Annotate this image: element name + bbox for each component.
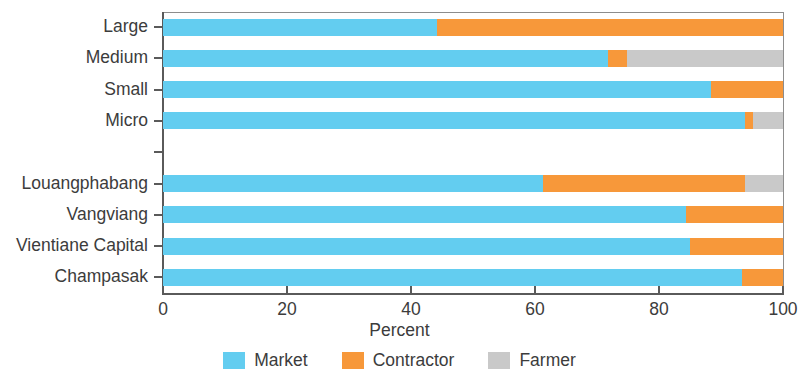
x-axis-tick bbox=[410, 286, 412, 295]
x-axis-tick-label-0: 0 bbox=[158, 299, 168, 319]
plot-frame-right bbox=[783, 12, 784, 294]
bar-segment-market bbox=[163, 50, 608, 67]
legend-swatch-market-icon bbox=[223, 352, 245, 369]
bar-small bbox=[163, 81, 783, 98]
bar-large bbox=[163, 19, 783, 36]
bar-segment-contractor bbox=[742, 269, 783, 286]
legend-swatch-farmer-icon bbox=[488, 352, 510, 369]
y-axis-label-medium: Medium bbox=[86, 48, 148, 67]
bar-segment-market bbox=[163, 19, 437, 36]
legend-item-market[interactable]: Market bbox=[223, 350, 307, 371]
x-axis-tick bbox=[782, 286, 784, 295]
bar-champasak bbox=[163, 269, 783, 286]
bar-segment-contractor bbox=[686, 206, 783, 223]
x-axis-tick bbox=[534, 286, 536, 295]
bar-medium bbox=[163, 50, 783, 67]
legend-item-contractor[interactable]: Contractor bbox=[342, 350, 455, 371]
bars-layer bbox=[163, 12, 783, 294]
bar-segment-market bbox=[163, 175, 543, 192]
bar-segment-market bbox=[163, 206, 686, 223]
bar-segment-market bbox=[163, 81, 711, 98]
y-axis-label-vangviang: Vangviang bbox=[67, 205, 148, 224]
bar-segment-contractor bbox=[745, 112, 753, 129]
y-axis-tick bbox=[154, 214, 163, 216]
x-axis-title: Percent bbox=[0, 320, 799, 341]
y-axis-tick bbox=[154, 26, 163, 28]
y-axis-tick bbox=[154, 120, 163, 122]
chart-legend: MarketContractorFarmer bbox=[0, 350, 799, 371]
y-axis-tick bbox=[154, 57, 163, 59]
stacked-bar-chart: LargeMediumSmallMicroLouangphabangVangvi… bbox=[0, 0, 799, 378]
bar-segment-contractor bbox=[608, 50, 627, 67]
y-axis-label-champasak: Champasak bbox=[55, 267, 148, 286]
bar-vientiane-capital bbox=[163, 238, 783, 255]
y-axis-label-vientiane-capital: Vientiane Capital bbox=[16, 236, 148, 255]
legend-swatch-contractor-icon bbox=[342, 352, 364, 369]
y-axis-tick bbox=[154, 276, 163, 278]
bar-segment-contractor bbox=[437, 19, 783, 36]
bar-segment-contractor bbox=[690, 238, 783, 255]
y-axis-tick bbox=[154, 183, 163, 185]
x-axis-tick bbox=[286, 286, 288, 295]
y-axis-tick bbox=[154, 151, 163, 153]
bar-segment-market bbox=[163, 112, 745, 129]
bar-segment-farmer bbox=[753, 112, 783, 129]
bar-segment-farmer bbox=[627, 50, 783, 67]
y-axis-label-large: Large bbox=[103, 17, 148, 36]
y-axis-label-small: Small bbox=[104, 80, 148, 99]
x-axis-tick bbox=[162, 286, 164, 295]
bar-segment-market bbox=[163, 238, 690, 255]
x-axis-tick-label-80: 80 bbox=[649, 299, 668, 319]
y-axis-label-louangphabang: Louangphabang bbox=[21, 174, 148, 193]
legend-item-farmer[interactable]: Farmer bbox=[488, 350, 575, 371]
x-axis-tick-label-40: 40 bbox=[401, 299, 420, 319]
bar-louangphabang bbox=[163, 175, 783, 192]
y-axis-tick bbox=[154, 89, 163, 91]
x-axis-tick bbox=[658, 286, 660, 295]
x-axis-tick-label-100: 100 bbox=[768, 299, 797, 319]
bar-micro bbox=[163, 112, 783, 129]
y-axis-label-micro: Micro bbox=[105, 111, 148, 130]
bar-segment-contractor bbox=[543, 175, 745, 192]
bar-segment-contractor bbox=[711, 81, 783, 98]
x-axis-tick-label-60: 60 bbox=[525, 299, 544, 319]
legend-label-contractor: Contractor bbox=[373, 350, 455, 371]
bar-segment-farmer bbox=[745, 175, 783, 192]
legend-label-market: Market bbox=[254, 350, 307, 371]
y-axis-tick bbox=[154, 245, 163, 247]
bar-segment-market bbox=[163, 269, 742, 286]
x-axis-tick-label-20: 20 bbox=[277, 299, 296, 319]
bar-vangviang bbox=[163, 206, 783, 223]
legend-label-farmer: Farmer bbox=[519, 350, 575, 371]
